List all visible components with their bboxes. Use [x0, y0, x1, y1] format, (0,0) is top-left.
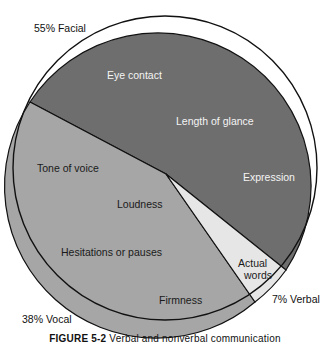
label-expression: Expression	[243, 171, 295, 183]
label-loudness: Loudness	[117, 198, 163, 210]
label-length-of-glance: Length of glance	[176, 115, 254, 127]
label-eye-contact: Eye contact	[107, 69, 162, 81]
figure-caption: FIGURE 5-2 Verbal and nonverbal communic…	[0, 333, 330, 344]
label-facial-outer: 55% Facial	[34, 22, 86, 34]
label-words: words	[243, 269, 272, 281]
label-tone-of-voice: Tone of voice	[37, 162, 99, 174]
caption-text: Verbal and nonverbal communication	[109, 333, 280, 344]
label-actual: Actual	[238, 257, 267, 269]
label-verbal-outer: 7% Verbal	[272, 293, 320, 305]
label-hesitations: Hesitations or pauses	[61, 246, 162, 258]
pie-chart: 55% Facial 38% Vocal 7% Verbal Eye conta…	[0, 0, 330, 344]
caption-prefix: FIGURE 5-2	[49, 333, 106, 344]
label-vocal-outer: 38% Vocal	[22, 313, 72, 325]
label-firmness: Firmness	[159, 294, 202, 306]
